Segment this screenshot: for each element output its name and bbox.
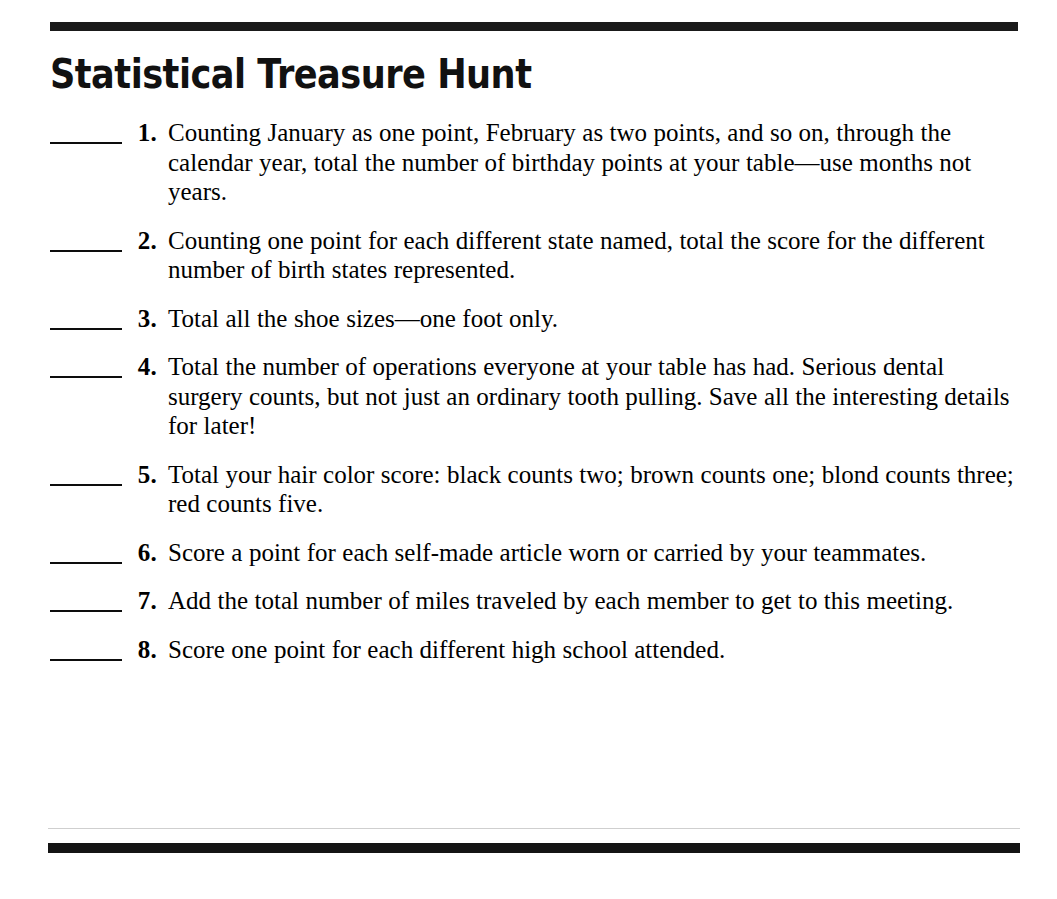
page-title: Statistical Treasure Hunt: [50, 52, 531, 96]
answer-blank-3[interactable]: [50, 304, 128, 333]
item-text: Total the number of operations everyone …: [168, 352, 1020, 441]
list-item: 3. Total all the shoe sizes—one foot onl…: [50, 304, 1020, 334]
item-text: Add the total number of miles traveled b…: [168, 586, 1020, 616]
answer-blank-6[interactable]: [50, 538, 128, 567]
list-item: 5. Total your hair color score: black co…: [50, 460, 1020, 519]
bottom-horizontal-rule: [48, 843, 1020, 853]
numbered-task-list: 1. Counting January as one point, Februa…: [50, 118, 1020, 664]
item-number: 5.: [128, 460, 168, 489]
answer-blank-8[interactable]: [50, 635, 128, 664]
item-text: Score a point for each self-made article…: [168, 538, 1020, 568]
top-horizontal-rule: [50, 22, 1018, 31]
list-item: 8. Score one point for each different hi…: [50, 635, 1020, 665]
item-number: 3.: [128, 304, 168, 333]
worksheet-page: Statistical Treasure Hunt 1. Counting Ja…: [0, 0, 1057, 899]
item-number: 2.: [128, 226, 168, 255]
item-number: 6.: [128, 538, 168, 567]
item-number: 7.: [128, 586, 168, 615]
faint-separator-rule: [48, 828, 1020, 829]
item-number: 1.: [128, 118, 168, 147]
answer-blank-7[interactable]: [50, 586, 128, 615]
item-text: Total all the shoe sizes—one foot only.: [168, 304, 1020, 334]
answer-blank-1[interactable]: [50, 118, 128, 147]
list-item: 4. Total the number of operations everyo…: [50, 352, 1020, 441]
answer-blank-5[interactable]: [50, 460, 128, 489]
item-number: 8.: [128, 635, 168, 664]
answer-blank-2[interactable]: [50, 226, 128, 255]
item-text: Counting one point for each different st…: [168, 226, 1020, 285]
list-item: 7. Add the total number of miles travele…: [50, 586, 1020, 616]
list-item: 2. Counting one point for each different…: [50, 226, 1020, 285]
list-item: 1. Counting January as one point, Februa…: [50, 118, 1020, 207]
item-text: Score one point for each different high …: [168, 635, 1020, 665]
list-item: 6. Score a point for each self-made arti…: [50, 538, 1020, 568]
item-text: Total your hair color score: black count…: [168, 460, 1020, 519]
answer-blank-4[interactable]: [50, 352, 128, 381]
item-number: 4.: [128, 352, 168, 381]
item-text: Counting January as one point, February …: [168, 118, 1020, 207]
